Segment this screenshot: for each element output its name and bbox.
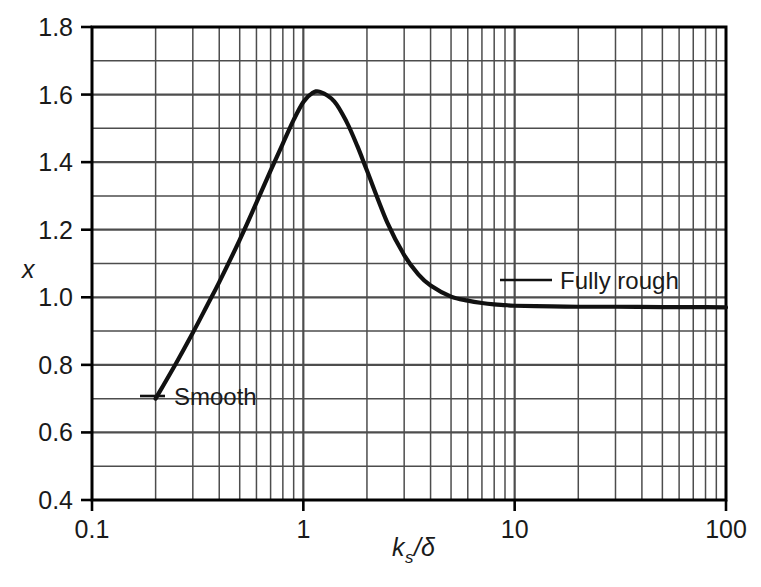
x-tick-label: 10 — [501, 515, 529, 543]
x-axis-title-base: k — [392, 533, 406, 561]
x-tick-label: 0.1 — [75, 515, 110, 543]
y-tick-label: 1.4 — [38, 148, 73, 176]
chart-svg: 0.40.60.81.01.21.41.61.8 0.1110100 x k s… — [0, 0, 761, 587]
y-axis-title: x — [21, 255, 36, 283]
y-tick-label: 1.6 — [38, 81, 73, 109]
x-tick-label: 1 — [296, 515, 310, 543]
y-tick-label: 1.0 — [38, 283, 73, 311]
figure-container: 0.40.60.81.01.21.41.61.8 0.1110100 x k s… — [0, 0, 761, 587]
y-tick-label: 1.8 — [38, 13, 73, 41]
x-tick-label: 100 — [705, 515, 747, 543]
y-tick-label: 0.6 — [38, 418, 73, 446]
smooth-label: Smooth — [174, 383, 257, 410]
x-axis-title-subscript: s — [405, 548, 414, 567]
y-tick-label: 0.8 — [38, 351, 73, 379]
fully-rough-label: Fully rough — [560, 267, 679, 294]
y-tick-label: 1.2 — [38, 216, 73, 244]
y-tick-label: 0.4 — [38, 486, 73, 514]
x-axis-title-tail: /δ — [412, 533, 436, 561]
